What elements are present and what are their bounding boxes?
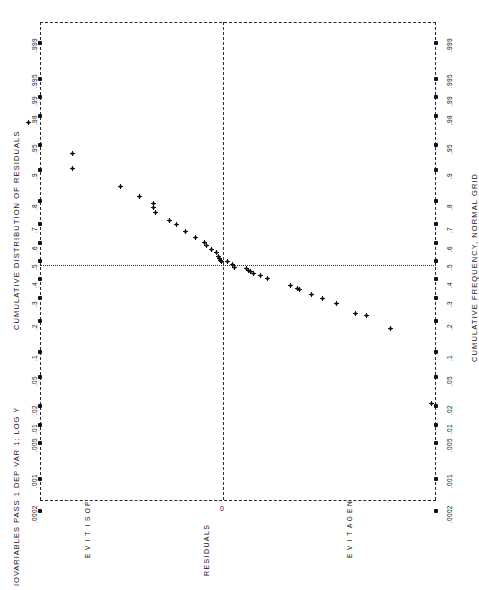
data-point [194, 236, 197, 239]
axis-tick-label: .4 [446, 282, 453, 288]
axis-tick [434, 199, 438, 203]
axis-tick-label: .5 [446, 264, 453, 270]
axis-tick-label: .995 [31, 74, 38, 88]
axis-tick-label: .2 [31, 323, 38, 329]
data-point [389, 327, 392, 330]
axis-tick [434, 509, 438, 513]
data-point [321, 297, 324, 300]
axis-tick-label: .95 [31, 144, 38, 154]
axis-tick-label: .7 [31, 227, 38, 233]
data-point [168, 219, 171, 222]
axis-tick [38, 222, 42, 226]
data-point [354, 312, 357, 315]
negative-label: NEGATIVE [345, 500, 355, 559]
axis-tick-label: .999 [31, 38, 38, 52]
axis-tick [38, 77, 42, 81]
axis-tick [434, 114, 438, 118]
axis-tick-label: .999 [446, 38, 453, 52]
axis-tick [38, 441, 42, 445]
axis-tick [38, 477, 42, 481]
axis-tick [38, 95, 42, 99]
frame-bottom-border [40, 500, 436, 501]
stacked-letter: E [346, 551, 353, 561]
axis-tick [434, 77, 438, 81]
axis-tick [434, 350, 438, 354]
axis-tick-label: .05 [446, 376, 453, 386]
axis-tick [434, 296, 438, 300]
axis-tick-label: .4 [31, 282, 38, 288]
bottom-axis-title: RESIDUALS [203, 524, 210, 576]
axis-tick [38, 41, 42, 45]
axis-tick-label: .3 [31, 301, 38, 307]
axis-tick [434, 477, 438, 481]
axis-tick-label: .01 [446, 425, 453, 435]
data-point [138, 195, 141, 198]
axis-tick-label: .2 [446, 323, 453, 329]
stacked-letter: E [84, 551, 91, 561]
axis-tick-label: .6 [31, 246, 38, 252]
axis-tick [38, 143, 42, 147]
axis-tick-label: .9 [446, 173, 453, 179]
data-point [71, 152, 74, 155]
axis-tick-label: .98 [31, 115, 38, 125]
data-point [252, 272, 255, 275]
axis-tick-label: .001 [31, 475, 38, 489]
axis-tick-label: .1 [31, 355, 38, 361]
data-point [27, 121, 30, 124]
axis-tick [38, 375, 42, 379]
axis-tick-label: .005 [31, 438, 38, 452]
data-point [266, 277, 269, 280]
positive-label: POSITIVE [83, 500, 93, 559]
axis-tick-label: .001 [446, 475, 453, 489]
axis-tick [434, 375, 438, 379]
data-point [210, 248, 213, 251]
probability-plot-figure: IOVARIABLES PASS 1 DEP VAR 1: LOG Y CUMU… [0, 0, 479, 590]
data-point [119, 185, 122, 188]
data-point [220, 260, 223, 263]
axis-tick [434, 95, 438, 99]
axis-tick [38, 350, 42, 354]
axis-tick [38, 404, 42, 408]
axis-tick-label: .8 [31, 204, 38, 210]
data-point [259, 274, 262, 277]
data-point [226, 260, 229, 263]
axis-tick-label: .995 [446, 74, 453, 88]
axis-tick [434, 441, 438, 445]
left-axis-title: CUMULATIVE DISTRIBUTION OF RESIDUALS [12, 131, 21, 330]
data-point [298, 288, 301, 291]
axis-tick [434, 143, 438, 147]
data-point [154, 211, 157, 214]
axis-tick-label: .99 [31, 96, 38, 106]
data-point [71, 167, 74, 170]
axis-tick [38, 168, 42, 172]
axis-tick [38, 259, 42, 263]
data-point [310, 293, 313, 296]
axis-tick [434, 241, 438, 245]
axis-tick [38, 114, 42, 118]
axis-tick-label: .98 [446, 115, 453, 125]
data-point [365, 314, 368, 317]
right-axis-title: CUMULATIVE FREQUENCY, NORMAL GRID [470, 173, 479, 362]
axis-tick-label: .01 [31, 425, 38, 435]
median-probability-line [40, 265, 436, 266]
axis-tick [434, 222, 438, 226]
axis-tick [38, 296, 42, 300]
figure-header-title: IOVARIABLES PASS 1 DEP VAR 1: LOG Y [12, 407, 21, 586]
axis-tick-label: .9 [31, 173, 38, 179]
data-point [205, 244, 208, 247]
zero-label: 0 [220, 505, 224, 512]
axis-tick [434, 319, 438, 323]
axis-tick [434, 404, 438, 408]
axis-tick-label: .1 [446, 355, 453, 361]
data-point [289, 284, 292, 287]
axis-tick-label: .3 [446, 301, 453, 307]
axis-tick-label: .0002 [446, 506, 453, 524]
data-point [430, 402, 433, 405]
axis-tick-label: .99 [446, 96, 453, 106]
axis-tick-label: .005 [446, 438, 453, 452]
axis-tick-label: .0002 [31, 506, 38, 524]
data-point [184, 230, 187, 233]
axis-tick [434, 168, 438, 172]
data-point [152, 206, 155, 209]
plot-area: .0002.001.005.01.02.05.1.2.3.4.5.6.7.8.9… [40, 22, 436, 500]
